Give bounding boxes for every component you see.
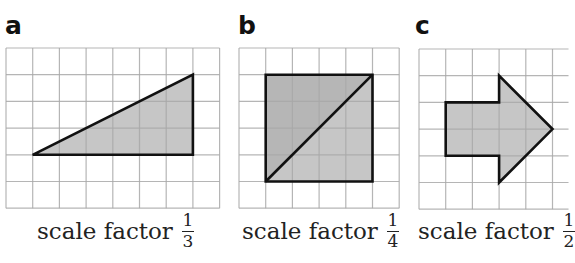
fraction-c: 1 2	[563, 212, 575, 250]
fraction-numerator-c: 1	[563, 212, 574, 229]
caption-c: scale factor 1 2	[418, 212, 575, 250]
grid-c-arrow	[0, 0, 569, 210]
caption-text-c: scale factor	[418, 220, 554, 243]
fraction-denominator-c: 2	[563, 233, 574, 250]
